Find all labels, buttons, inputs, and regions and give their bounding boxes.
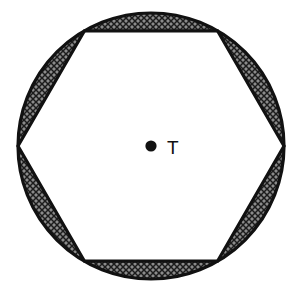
- geometry-figure: T: [0, 0, 302, 289]
- center-point-marker: [145, 140, 156, 151]
- center-point-label: T: [167, 137, 179, 158]
- geometry-diagram-svg: T: [0, 0, 302, 289]
